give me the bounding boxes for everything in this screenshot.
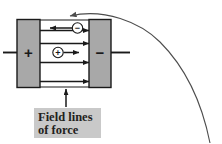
callout-line-2: of force	[38, 123, 79, 137]
negative-charge-label: −	[75, 23, 80, 33]
callout-line-1: Field lines	[38, 110, 93, 124]
positive-plate-label: +	[24, 44, 33, 61]
positive-charge-label: +	[55, 48, 60, 58]
diagram-canvas: + − − + Field lines of force	[0, 0, 222, 144]
capacitor-field-diagram: + − − + Field lines of force	[0, 0, 222, 144]
negative-plate-label: −	[96, 44, 105, 61]
